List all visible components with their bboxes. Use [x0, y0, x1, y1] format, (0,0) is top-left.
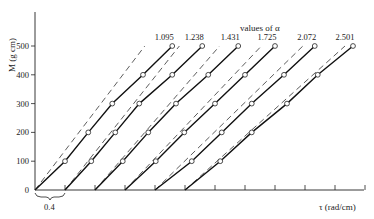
- data-point-marker: [89, 159, 94, 164]
- y-axis-label: M (g cm): [7, 38, 17, 72]
- x-axis-ticks: [65, 185, 365, 190]
- curve-labels: 1.0951.2381.4311.7252.0722.501: [155, 32, 355, 42]
- dashed-theory-line: [35, 46, 145, 190]
- data-point-marker: [351, 44, 356, 49]
- dashed-theory-line: [185, 46, 345, 190]
- x-axis-label: τ (rad/cm): [319, 202, 356, 212]
- dashed-theory-line: [125, 46, 261, 190]
- data-point-marker: [137, 101, 142, 106]
- data-point-marker: [249, 101, 254, 106]
- data-point-marker: [182, 130, 187, 135]
- y-tick-label: 500: [16, 41, 29, 51]
- data-point-marker: [189, 159, 194, 164]
- y-tick-label: 400: [16, 70, 29, 80]
- alpha-label: 2.072: [297, 32, 316, 42]
- data-point-marker: [206, 72, 211, 77]
- data-point-marker: [312, 44, 317, 49]
- alpha-label: 1.095: [155, 32, 174, 42]
- solid-curve: [185, 46, 353, 190]
- legend-title: values of α: [240, 23, 280, 33]
- series-alpha-2.501: [185, 44, 355, 190]
- series-alpha-1.095: [35, 44, 175, 190]
- data-point-marker: [146, 130, 151, 135]
- data-point-marker: [86, 130, 91, 135]
- y-tick-label: 0: [25, 185, 29, 195]
- dashed-theory-line: [155, 46, 303, 190]
- data-point-marker: [249, 130, 254, 135]
- y-tick-label: 200: [16, 127, 29, 137]
- alpha-label: 1.725: [257, 32, 276, 42]
- data-point-marker: [153, 159, 158, 164]
- data-point-marker: [236, 44, 241, 49]
- data-point-marker: [200, 44, 205, 49]
- data-point-marker: [113, 130, 118, 135]
- offset-annotation: 0.4: [44, 202, 55, 212]
- data-point-marker: [141, 72, 146, 77]
- solid-curve: [35, 46, 172, 190]
- series-alpha-1.431: [95, 44, 241, 190]
- y-tick-label: 300: [16, 99, 29, 109]
- series-alpha-1.725: [125, 44, 277, 190]
- data-point-marker: [243, 72, 248, 77]
- data-point-marker: [174, 101, 179, 106]
- data-point-marker: [120, 159, 125, 164]
- data-point-marker: [219, 130, 224, 135]
- solid-curve: [95, 46, 238, 190]
- data-point-marker: [282, 72, 287, 77]
- data-point-marker: [218, 159, 223, 164]
- data-point-marker: [63, 159, 68, 164]
- data-point-marker: [170, 72, 175, 77]
- dashed-theory-line: [95, 46, 220, 190]
- torque-twist-chart: 0100200300400500 1.0951.2381.4311.7252.0…: [0, 0, 374, 219]
- alpha-label: 1.431: [221, 32, 240, 42]
- series-alpha-2.072: [155, 44, 317, 190]
- y-axis-ticks: 0100200300400500: [16, 41, 35, 195]
- data-point-marker: [315, 72, 320, 77]
- data-point-marker: [285, 101, 290, 106]
- data-point-marker: [273, 44, 278, 49]
- data-point-marker: [170, 44, 175, 49]
- data-point-marker: [110, 101, 115, 106]
- y-tick-label: 100: [16, 156, 29, 166]
- alpha-label: 1.238: [185, 32, 204, 42]
- offset-brace: [35, 193, 65, 200]
- solid-curve: [125, 46, 275, 190]
- alpha-label: 2.501: [335, 32, 354, 42]
- data-point-marker: [213, 101, 218, 106]
- data-series: [35, 44, 355, 190]
